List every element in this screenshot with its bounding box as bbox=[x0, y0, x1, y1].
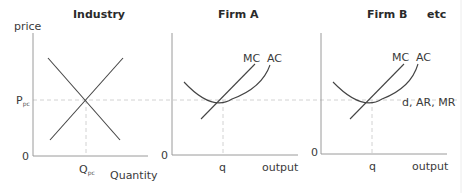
industry-price-label: Ppc bbox=[16, 94, 30, 108]
firm-b-quantity-label: q bbox=[369, 160, 376, 173]
firm-a-mc-label: MC bbox=[243, 52, 260, 65]
price-axis-label: price bbox=[14, 20, 42, 33]
firm-a-ac-curve bbox=[184, 65, 270, 103]
industry-demand-curve bbox=[48, 58, 120, 140]
firm-b-mc-curve bbox=[350, 64, 404, 119]
firm-a-panel: Firm A 0 MC AC q output bbox=[161, 8, 299, 174]
perfect-competition-diagram: Industry price 0 Ppc Qpc Quantity Firm A… bbox=[0, 0, 467, 193]
firm-a-x-axis-label: output bbox=[262, 161, 299, 174]
industry-quantity-label: Qpc bbox=[79, 163, 95, 177]
firm-b-title: Firm B bbox=[367, 8, 407, 21]
firm-b-panel: Firm B etc 0 MC AC d, AR, MR q output bbox=[311, 8, 456, 173]
firm-b-x-axis-label: output bbox=[412, 160, 449, 173]
etc-label: etc bbox=[427, 8, 446, 21]
firm-a-ac-label: AC bbox=[267, 52, 282, 65]
industry-title: Industry bbox=[73, 8, 125, 21]
firm-a-origin-label: 0 bbox=[161, 149, 168, 162]
firm-a-title: Firm A bbox=[218, 8, 259, 21]
firm-b-ac-label: AC bbox=[416, 51, 431, 64]
firm-b-mc-label: MC bbox=[392, 51, 409, 64]
industry-x-axis-label: Quantity bbox=[110, 169, 158, 182]
firm-b-origin-label: 0 bbox=[311, 146, 318, 159]
industry-panel: Industry price 0 Ppc Qpc Quantity bbox=[14, 8, 158, 182]
firm-b-demand-label: d, AR, MR bbox=[402, 96, 456, 109]
industry-supply-curve bbox=[50, 58, 123, 140]
firm-a-quantity-label: q bbox=[219, 161, 226, 174]
industry-origin-label: 0 bbox=[22, 150, 29, 163]
